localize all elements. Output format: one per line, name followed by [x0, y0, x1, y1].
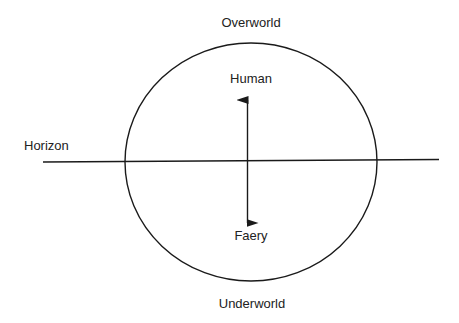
human-label: Human [230, 71, 272, 86]
horizon-line [43, 160, 439, 163]
faery-label: Faery [234, 228, 268, 243]
horizon-label: Horizon [24, 138, 69, 153]
underworld-label: Underworld [219, 296, 285, 311]
world-diagram: Overworld Human Horizon Faery Underworld [0, 0, 459, 323]
overworld-label: Overworld [221, 15, 280, 30]
